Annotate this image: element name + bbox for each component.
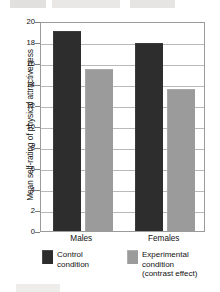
bar-females-experimental (167, 89, 195, 231)
legend-label-control-line-1: condition (57, 260, 89, 270)
legend-label-control: Control condition (57, 250, 89, 269)
y-tick-label: 6 (0, 164, 40, 174)
y-tick-label: 4 (0, 185, 40, 195)
y-tick-label: 14 (0, 80, 40, 90)
x-axis-labels: MalesFemales (40, 234, 205, 248)
legend-label-experimental: Experimental condition (contrast effect) (142, 250, 197, 279)
plot-area (40, 22, 205, 232)
legend-entry-experimental: Experimental condition (contrast effect) (127, 250, 197, 279)
y-tick-label: 8 (0, 143, 40, 153)
chart-legend: Control condition Experimental condition… (42, 250, 220, 290)
bar-males-control (53, 31, 81, 232)
y-tick-label: 12 (0, 101, 40, 111)
dark-swatch-icon (42, 250, 53, 264)
legend-entry-control: Control condition (42, 250, 89, 269)
legend-label-control-line-0: Control (57, 250, 89, 260)
legend-label-experimental-line-2: (contrast effect) (142, 269, 197, 279)
y-tick-label: 20 (0, 17, 40, 27)
x-tick-label-females: Females (134, 234, 194, 243)
legend-label-experimental-line-1: condition (142, 260, 197, 270)
x-tick-label-males: Males (51, 234, 111, 243)
y-tick-label: 16 (0, 59, 40, 69)
y-tick-label: 10 (0, 122, 40, 132)
y-tick-label: 18 (0, 38, 40, 48)
scan-artifact-top (0, 0, 220, 8)
bar-chart-figure: Mean self-rating of physical attractiven… (0, 0, 220, 292)
y-tick-label: 0 (0, 227, 40, 237)
legend-label-experimental-line-0: Experimental (142, 250, 197, 260)
bar-females-control (135, 43, 163, 231)
y-tick-label: 2 (0, 206, 40, 216)
y-axis-ticks: 02468101214161820 (0, 22, 40, 232)
bar-males-experimental (85, 69, 113, 231)
gray-swatch-icon (127, 250, 138, 264)
